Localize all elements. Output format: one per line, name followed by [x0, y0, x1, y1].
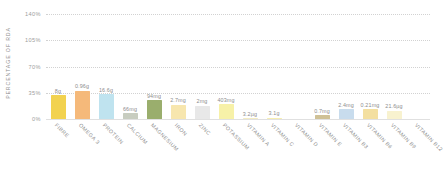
bar-value-label: 8g: [55, 88, 61, 94]
bar: [387, 111, 402, 119]
x-tick-slot: VITAMIN B9: [382, 120, 406, 171]
bar-value-label: 94mg: [147, 93, 161, 99]
bar-value-label: 2.4mg: [338, 102, 354, 108]
bar: [147, 100, 162, 119]
bar-value-label: 0.96g: [75, 83, 89, 89]
x-tick-slot: FIBRE: [46, 120, 70, 171]
bar-group: 94mg: [142, 14, 166, 119]
bar-group: [406, 14, 430, 119]
y-axis-tick-label: 0%: [32, 116, 41, 122]
y-axis-tick-label: 35%: [29, 90, 41, 96]
bar-group: 2.4mg: [334, 14, 358, 119]
bar-group: 0.96g: [70, 14, 94, 119]
x-tick-slot: VITAMIN A: [238, 120, 262, 171]
bar: [219, 104, 234, 119]
y-axis-title: PERCENTAGE OF RDA: [0, 0, 16, 125]
bar-group: 403mg: [214, 14, 238, 119]
x-tick-slot: VITAMIN D: [286, 120, 310, 171]
bar: [99, 94, 114, 119]
bar: [363, 109, 378, 119]
bar-group: 3.1g: [262, 14, 286, 119]
bar-value-label: 21.6µg: [385, 103, 403, 109]
bar-value-label: 2mg: [197, 98, 208, 104]
bar-group: 66mg: [118, 14, 142, 119]
bar-value-label: 3.1g: [268, 110, 279, 116]
bar-value-label: 16.6g: [99, 87, 113, 93]
x-tick-slot: VITAMIN B6: [358, 120, 382, 171]
bar-group: 2.7mg: [166, 14, 190, 119]
x-tick-slot: MAGNESIUM: [142, 120, 166, 171]
bar-value-label: 66mg: [123, 106, 137, 112]
bar-group: 0.7mg: [310, 14, 334, 119]
bar-value-label: 403mg: [217, 97, 234, 103]
x-tick-slot: VITAMIN E: [310, 120, 334, 171]
x-axis-tick-label: IRON: [174, 122, 189, 137]
x-axis-tick-label: FIBRE: [54, 122, 71, 139]
y-axis-title-label: PERCENTAGE OF RDA: [5, 27, 11, 99]
bar-group: 21.6µg: [382, 14, 406, 119]
bar: [195, 106, 210, 120]
x-tick-slot: POTASSIUM: [214, 120, 238, 171]
x-axis-tick-label: ZINC: [198, 122, 212, 136]
x-tick-slot: VITAMIN C: [262, 120, 286, 171]
bar-value-label: 0.7mg: [314, 108, 330, 114]
bars-layer: 8g0.96g16.6g66mg94mg2.7mg2mg403mg3.2µg3.…: [46, 14, 430, 119]
x-axis-tick-labels: FIBREOMEGA 3PROTEINCALCIUMMAGNESIUMIRONZ…: [46, 120, 430, 171]
y-axis-tick-label: 70%: [29, 64, 41, 70]
x-tick-slot: OMEGA 3: [70, 120, 94, 171]
bar-value-label: 0.21mg: [361, 102, 380, 108]
x-tick-slot: CALCIUM: [118, 120, 142, 171]
bar-value-label: 3.2µg: [243, 111, 257, 117]
bar-group: [286, 14, 310, 119]
bar-group: 16.6g: [94, 14, 118, 119]
plot-area: 0%35%70%105%140% 8g0.96g16.6g66mg94mg2.7…: [46, 14, 430, 119]
x-tick-slot: VITAMIN B3: [334, 120, 358, 171]
bar: [75, 91, 90, 120]
x-tick-slot: IRON: [166, 120, 190, 171]
bar-group: 3.2µg: [238, 14, 262, 119]
bar-group: 0.21mg: [358, 14, 382, 119]
y-axis-tick-label: 105%: [25, 37, 41, 43]
bar: [339, 109, 354, 119]
bar-group: 8g: [46, 14, 70, 119]
x-tick-slot: VITAMIN B12: [406, 120, 430, 171]
x-tick-slot: PROTEIN: [94, 120, 118, 171]
y-axis-tick-label: 140%: [25, 11, 41, 17]
bar: [51, 95, 66, 119]
x-axis-tick-label: VITAMIN B12: [414, 122, 444, 152]
bar: [171, 105, 186, 119]
bar-value-label: 2.7mg: [170, 97, 186, 103]
x-tick-slot: ZINC: [190, 120, 214, 171]
bar-group: 2mg: [190, 14, 214, 119]
